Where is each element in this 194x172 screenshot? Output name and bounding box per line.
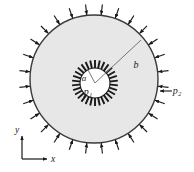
external-pressure-arrow	[86, 4, 87, 14]
external-pressure-arrow	[155, 100, 165, 103]
external-pressure-arrow	[158, 71, 168, 72]
external-pressure-arrow	[149, 39, 158, 45]
external-pressure-arrow	[115, 140, 118, 150]
internal-pressure-symbol: p	[83, 86, 89, 97]
external-pressure-arrow	[69, 8, 72, 18]
external-pressure-arrow	[158, 86, 168, 87]
external-pressure-subscript: 2	[178, 90, 181, 97]
external-pressure-arrow	[19, 71, 29, 72]
cylinder-cross-section-diagram: a b p1 p2 y x	[0, 0, 194, 172]
y-axis-label: y	[14, 125, 20, 135]
external-pressure-arrow	[128, 134, 134, 143]
coordinate-axes-group	[22, 136, 47, 159]
outer-radius-label: b	[134, 59, 139, 70]
external-pressure-symbol: p	[172, 85, 178, 96]
external-pressure-arrow	[155, 54, 165, 57]
external-pressure-arrow	[140, 125, 147, 132]
external-pressure-arrow	[115, 8, 118, 18]
external-pressure-arrow	[30, 39, 39, 45]
external-pressure-arrow	[31, 113, 40, 119]
internal-pressure-subscript: 1	[89, 91, 92, 98]
external-pressure-arrow	[41, 26, 48, 33]
external-pressure-arrow	[41, 125, 48, 132]
external-pressure-arrow	[69, 140, 72, 150]
x-axis-label: x	[50, 154, 56, 164]
inner-radius-label: a	[82, 73, 87, 83]
external-pressure-arrow	[101, 4, 102, 14]
external-pressure-arrow	[128, 15, 134, 24]
figure-container: a b p1 p2 y x	[0, 0, 194, 172]
external-pressure-label: p2	[172, 85, 181, 97]
external-pressure-arrow	[140, 26, 147, 33]
external-pressure-arrow	[101, 143, 102, 153]
external-pressure-arrow	[54, 134, 60, 143]
external-pressure-arrow	[149, 113, 158, 119]
external-pressure-arrow	[19, 86, 29, 87]
external-pressure-arrow	[54, 16, 60, 25]
external-pressure-arrow	[23, 54, 33, 57]
external-pressure-arrow	[86, 143, 87, 153]
external-pressure-arrow	[23, 100, 33, 103]
